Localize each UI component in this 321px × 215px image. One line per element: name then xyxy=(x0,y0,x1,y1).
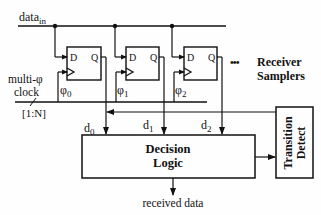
ff2-d-label: D xyxy=(187,52,194,63)
samplers-label-line1: Receiver xyxy=(257,55,302,69)
data-in-label: datain xyxy=(19,10,47,26)
clock-bus xyxy=(15,98,207,106)
data-in-line xyxy=(18,24,226,28)
received-data-label: received data xyxy=(143,197,204,209)
ff2-q-label: Q xyxy=(208,52,216,63)
ff1-q-label: Q xyxy=(150,52,158,63)
d1-label: d1 xyxy=(143,118,154,134)
ff1-d-label: D xyxy=(129,52,136,63)
d2-label: d2 xyxy=(201,118,212,134)
transition-label-line2: Detect xyxy=(294,127,308,160)
receiver-block-diagram: datain multi-φ clock [1:N] D Q φ0 D Q φ1 xyxy=(0,0,321,215)
decision-logic-label-line1: Decision xyxy=(145,142,190,156)
clock-label-line1: multi-φ xyxy=(8,73,43,86)
phase2-label: φ2 xyxy=(175,83,186,99)
transition-label-line1: Transition xyxy=(281,116,295,169)
decision-logic-label-line2: Logic xyxy=(153,156,183,170)
phase0-label: φ0 xyxy=(60,83,72,99)
bus-width-label: [1:N] xyxy=(22,107,46,119)
samplers-label-line2: Samplers xyxy=(257,69,305,83)
ff0-q-label: Q xyxy=(91,52,99,63)
clock-label-line2: clock xyxy=(14,86,39,98)
phase1-label: φ1 xyxy=(117,83,128,99)
ff0-d-label: D xyxy=(70,52,77,63)
ellipsis-icon: ••• xyxy=(230,56,240,68)
